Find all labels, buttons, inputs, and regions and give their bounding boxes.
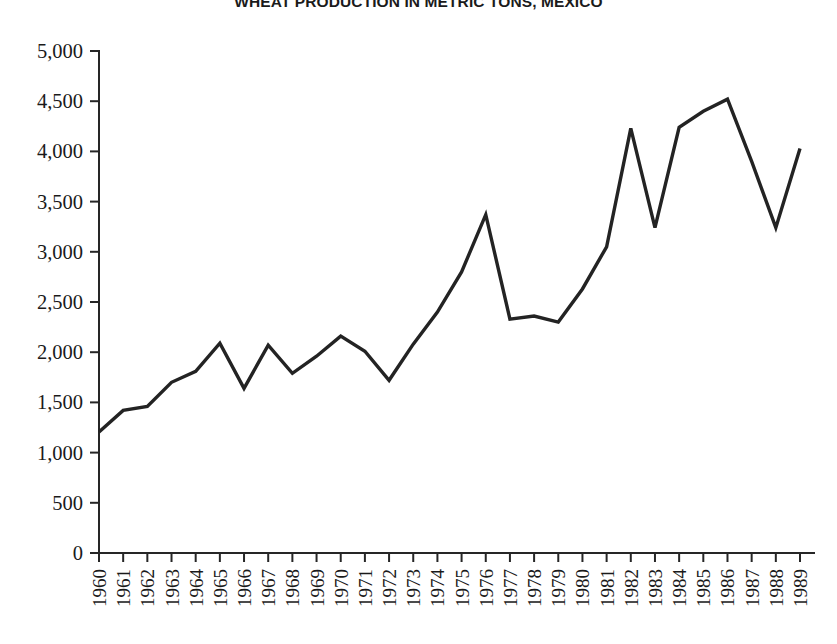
x-axis-tick-marks bbox=[99, 553, 800, 562]
x-tick-label: 1988 bbox=[766, 569, 787, 607]
x-tick-label: 1977 bbox=[500, 569, 521, 607]
x-tick-label: 1981 bbox=[597, 569, 618, 607]
x-tick-label: 1973 bbox=[403, 569, 424, 607]
x-tick-label: 1987 bbox=[742, 569, 763, 607]
x-tick-label: 1986 bbox=[717, 569, 738, 607]
x-tick-label: 1967 bbox=[258, 569, 279, 607]
x-tick-label: 1974 bbox=[427, 569, 448, 608]
y-axis-tick-labels: 5,0004,5004,0003,5003,0002,5002,0001,500… bbox=[37, 40, 83, 564]
x-tick-label: 1962 bbox=[137, 569, 158, 607]
y-tick-label: 4,500 bbox=[37, 90, 83, 112]
y-tick-label: 3,500 bbox=[37, 191, 83, 213]
x-tick-label: 1969 bbox=[307, 569, 328, 607]
y-tick-label: 1,000 bbox=[37, 442, 83, 464]
x-tick-label: 1960 bbox=[89, 569, 110, 607]
x-tick-label: 1980 bbox=[572, 569, 593, 607]
x-tick-label: 1976 bbox=[476, 569, 497, 607]
line-chart-plot: 5,0004,5004,0003,5003,0002,5002,0001,500… bbox=[0, 0, 837, 644]
x-tick-label: 1979 bbox=[548, 569, 569, 607]
x-tick-label: 1978 bbox=[524, 569, 545, 607]
x-tick-label: 1982 bbox=[621, 569, 642, 607]
x-axis-tick-labels: 1960196119621963196419651966196719681969… bbox=[89, 569, 811, 608]
data-series-line bbox=[99, 99, 800, 432]
y-tick-label: 4,000 bbox=[37, 140, 83, 162]
y-tick-label: 2,500 bbox=[37, 291, 83, 313]
y-tick-label: 2,000 bbox=[37, 341, 83, 363]
x-tick-label: 1975 bbox=[452, 569, 473, 607]
x-tick-label: 1971 bbox=[355, 569, 376, 607]
x-tick-label: 1985 bbox=[693, 569, 714, 607]
x-tick-label: 1972 bbox=[379, 569, 400, 607]
x-tick-label: 1965 bbox=[210, 569, 231, 607]
x-tick-label: 1968 bbox=[282, 569, 303, 607]
y-tick-label: 5,000 bbox=[37, 40, 83, 62]
x-tick-label: 1984 bbox=[669, 569, 690, 608]
x-tick-label: 1964 bbox=[186, 569, 207, 608]
chart-page: WHEAT PRODUCTION IN METRIC TONS, MEXICO … bbox=[0, 0, 837, 644]
x-tick-label: 1983 bbox=[645, 569, 666, 607]
x-tick-label: 1963 bbox=[162, 569, 183, 607]
y-tick-label: 1,500 bbox=[37, 391, 83, 413]
y-tick-label: 500 bbox=[52, 492, 83, 514]
x-tick-label: 1989 bbox=[790, 569, 811, 607]
y-tick-label: 3,000 bbox=[37, 241, 83, 263]
x-tick-label: 1966 bbox=[234, 569, 255, 607]
x-tick-label: 1961 bbox=[113, 569, 134, 607]
y-axis-tick-marks bbox=[90, 51, 99, 553]
y-tick-label: 0 bbox=[73, 542, 83, 564]
x-tick-label: 1970 bbox=[331, 569, 352, 607]
